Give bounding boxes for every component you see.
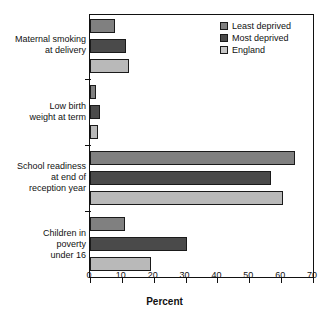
category-label-maternal-smoking: Maternal smoking at delivery [2, 34, 86, 56]
legend-swatch-icon [220, 34, 228, 42]
bar-maternal-smoking-most-deprived [90, 39, 126, 53]
legend-label: Most deprived [232, 33, 289, 43]
x-axis-tick-label: 50 [243, 270, 253, 280]
x-axis-tick-label: 10 [116, 270, 126, 280]
legend: Least deprived Most deprived England [220, 21, 291, 55]
category-label-school-readiness: School readiness at end of reception yea… [2, 161, 86, 194]
legend-swatch-icon [220, 22, 228, 30]
bar-chart: Maternal smoking at delivery Low birth w… [0, 0, 329, 315]
category-label-children-in-poverty: Children in poverty under 16 [2, 228, 86, 261]
legend-item-england: England [220, 45, 291, 55]
category-separator-tick [85, 79, 91, 80]
x-axis-tick-label: 0 [86, 270, 91, 280]
bar-low-birth-weight-least-deprived [90, 85, 96, 99]
bar-maternal-smoking-least-deprived [90, 19, 115, 33]
bar-children-in-poverty-england [90, 257, 151, 271]
x-axis-tick-label: 20 [148, 270, 158, 280]
x-axis-tick-label: 70 [307, 270, 317, 280]
bar-low-birth-weight-england [90, 125, 98, 139]
legend-label: Least deprived [232, 21, 291, 31]
bar-school-readiness-most-deprived [90, 171, 271, 185]
x-axis-tick-label: 40 [211, 270, 221, 280]
x-axis-tick-label: 30 [180, 270, 190, 280]
legend-item-most-deprived: Most deprived [220, 33, 291, 43]
bar-children-in-poverty-least-deprived [90, 217, 125, 231]
legend-swatch-icon [220, 46, 228, 54]
plot-area: Least deprived Most deprived England [89, 14, 314, 278]
bar-children-in-poverty-most-deprived [90, 237, 187, 251]
bar-low-birth-weight-most-deprived [90, 105, 100, 119]
legend-item-least-deprived: Least deprived [220, 21, 291, 31]
x-axis-title: Percent [0, 296, 329, 307]
category-separator-tick [85, 211, 91, 212]
x-axis-tick-label: 60 [275, 270, 285, 280]
legend-label: England [232, 45, 265, 55]
bar-school-readiness-england [90, 191, 283, 205]
bar-school-readiness-least-deprived [90, 151, 295, 165]
category-label-low-birth-weight: Low birth weight at term [2, 101, 86, 123]
category-separator-tick [85, 145, 91, 146]
bar-maternal-smoking-england [90, 59, 129, 73]
